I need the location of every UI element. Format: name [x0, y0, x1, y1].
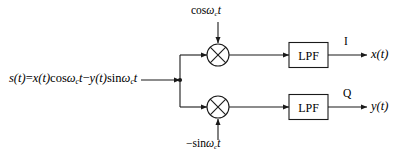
carrier-bottom-omega: ω — [206, 137, 214, 149]
carrier-top-time: t — [218, 4, 221, 16]
junction-dot — [178, 78, 182, 82]
input-signal-expression: s(t)=x(t)cosωct−y(t)sinωct — [9, 72, 137, 86]
input-term2-fn: sin — [107, 71, 122, 85]
branch-tag-q: Q — [343, 88, 351, 100]
carrier-label-top: cosωct — [191, 5, 221, 18]
input-term2-amplitude: y(t) — [90, 71, 107, 85]
lpf-top-label: LPF — [289, 49, 328, 64]
input-operator: − — [83, 71, 90, 85]
branch-tag-i: I — [344, 36, 348, 48]
output-label-y: y(t) — [371, 100, 388, 113]
carrier-bottom-fn: sin — [193, 137, 206, 149]
lpf-bottom-label: LPF — [289, 101, 328, 116]
carrier-label-bottom: −sinωct — [186, 138, 220, 151]
block-diagram-canvas: s(t)=x(t)cosωct−y(t)sinωct cosωct −sinωc… — [0, 0, 397, 161]
input-term1-amplitude: x(t) — [33, 71, 50, 85]
input-equals: = — [26, 71, 33, 85]
output-label-x: x(t) — [371, 48, 388, 61]
carrier-top-fn: cos — [191, 4, 206, 16]
input-signal-name: s(t) — [9, 71, 26, 85]
input-term1-omega: ω — [67, 71, 76, 85]
carrier-bottom-time: t — [217, 137, 220, 149]
input-term2-time: t — [134, 71, 137, 85]
input-term1-fn: cos — [50, 71, 67, 85]
